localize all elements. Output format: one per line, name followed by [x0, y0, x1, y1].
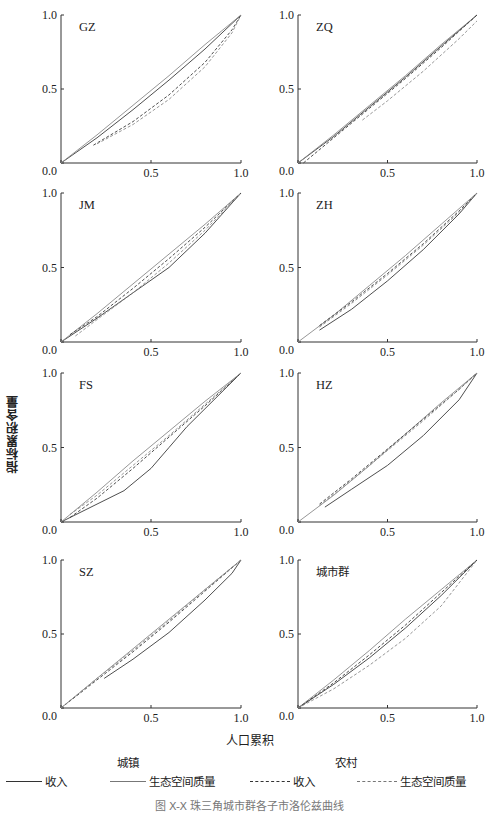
y-tick-label: 0.0 — [279, 343, 294, 357]
plot-grid: 0.00.50.51.01.0GZ0.00.50.51.01.0ZQ0.00.5… — [0, 0, 499, 730]
y-tick-label: 0.5 — [279, 627, 294, 641]
y-tick-label: 1.0 — [42, 366, 57, 380]
solid-line-icon — [110, 781, 146, 782]
y-tick-label: 0.5 — [279, 261, 294, 275]
x-tick-label: 1.0 — [234, 711, 249, 725]
curve-城镇-生态空间质量 — [298, 15, 477, 163]
curve-农村-生态空间质量 — [97, 15, 241, 144]
curve-农村-收入 — [93, 15, 241, 145]
x-tick-label: 0.5 — [144, 166, 159, 180]
y-tick-label: 1.0 — [279, 366, 294, 380]
y-tick-label: 0.5 — [42, 261, 57, 275]
curve-城镇-生态空间质量 — [61, 373, 241, 522]
panel-SZ: 0.00.50.51.01.0SZ — [42, 553, 249, 725]
legend-label: 生态空间质量 — [400, 773, 466, 789]
panel-title: HZ — [316, 378, 333, 392]
x-tick-label: 0.5 — [144, 711, 159, 725]
y-tick-label: 1.0 — [279, 186, 294, 200]
panel-城市群: 0.00.50.51.01.0城市群 — [279, 553, 485, 725]
curve-农村-收入 — [70, 193, 241, 335]
x-axis-label: 人口累积 — [0, 731, 499, 748]
legend-label: 收入 — [293, 773, 315, 789]
panel-title: SZ — [79, 565, 94, 579]
curve-城镇-生态空间质量 — [298, 560, 477, 708]
curve-城镇-生态空间质量 — [61, 193, 241, 342]
y-tick-label: 0.0 — [279, 164, 294, 178]
y-tick-label: 0.5 — [42, 627, 57, 641]
dashed-line-icon — [357, 781, 397, 782]
x-tick-label: 1.0 — [234, 525, 249, 539]
legend-group-rural: 农村 — [335, 754, 357, 770]
y-tick-label: 1.0 — [42, 186, 57, 200]
y-tick-label: 1.0 — [42, 553, 57, 567]
panel-title: ZH — [316, 198, 333, 212]
legend: 收入 生态空间质量 收入 生态空间质量 — [0, 773, 499, 789]
panel-title: 城市群 — [316, 565, 350, 579]
curve-城镇-生态空间质量 — [298, 193, 477, 342]
y-tick-label: 1.0 — [279, 8, 294, 22]
panel-GZ: 0.00.50.51.01.0GZ — [42, 8, 249, 180]
y-tick-label: 0.0 — [42, 523, 57, 537]
legend-item-rural-income: 收入 — [250, 773, 315, 789]
x-tick-label: 1.0 — [470, 525, 485, 539]
y-tick-label: 1.0 — [279, 553, 294, 567]
y-tick-label: 0.0 — [42, 164, 57, 178]
y-axis-label: 指标累积含量 — [4, 395, 24, 473]
panel-title: FS — [79, 378, 93, 392]
curve-农村-收入 — [320, 193, 478, 326]
panel-title: GZ — [79, 20, 96, 34]
y-tick-label: 0.0 — [279, 523, 294, 537]
y-tick-label: 0.5 — [42, 441, 57, 455]
solid-line-icon — [6, 781, 42, 782]
figure-caption: 图 X-X 珠三角城市群各子市洛伦兹曲线 — [0, 797, 499, 813]
legend-group-urban: 城镇 — [117, 754, 139, 770]
y-tick-label: 0.0 — [279, 709, 294, 723]
x-tick-label: 0.5 — [380, 345, 395, 359]
x-tick-label: 1.0 — [470, 166, 485, 180]
y-tick-label: 0.0 — [42, 343, 57, 357]
x-tick-label: 0.5 — [380, 711, 395, 725]
x-tick-label: 1.0 — [470, 345, 485, 359]
legend-label: 收入 — [45, 773, 67, 789]
x-tick-label: 1.0 — [234, 166, 249, 180]
panel-ZH: 0.00.50.51.01.0ZH — [279, 186, 485, 359]
y-tick-label: 0.5 — [42, 82, 57, 96]
panel-ZQ: 0.00.50.51.01.0ZQ — [279, 8, 485, 180]
y-tick-label: 0.5 — [279, 82, 294, 96]
x-tick-label: 0.5 — [380, 166, 395, 180]
y-tick-label: 0.5 — [279, 441, 294, 455]
curve-农村-生态空间质量 — [362, 21, 477, 120]
curve-城镇-生态空间质量 — [61, 15, 241, 163]
curve-城镇-收入 — [61, 193, 241, 342]
x-tick-label: 1.0 — [234, 345, 249, 359]
dashed-line-icon — [250, 781, 290, 782]
panel-HZ: 0.00.50.51.01.0HZ — [279, 366, 485, 539]
x-tick-label: 0.5 — [380, 525, 395, 539]
legend-item-urban-income: 收入 — [6, 773, 67, 789]
curve-城镇-生态空间质量 — [61, 560, 241, 708]
panel-title: ZQ — [316, 20, 333, 34]
panel-FS: 0.00.50.51.01.0FS — [42, 366, 249, 539]
legend-item-urban-eco: 生态空间质量 — [110, 773, 215, 789]
legend-label: 生态空间质量 — [149, 773, 215, 789]
y-tick-label: 0.0 — [42, 709, 57, 723]
panel-title: JM — [79, 198, 95, 212]
legend-item-rural-eco: 生态空间质量 — [357, 773, 466, 789]
panel-JM: 0.00.50.51.01.0JM — [42, 186, 249, 359]
x-tick-label: 1.0 — [470, 711, 485, 725]
x-tick-label: 0.5 — [144, 345, 159, 359]
y-tick-label: 1.0 — [42, 8, 57, 22]
x-tick-label: 0.5 — [144, 525, 159, 539]
